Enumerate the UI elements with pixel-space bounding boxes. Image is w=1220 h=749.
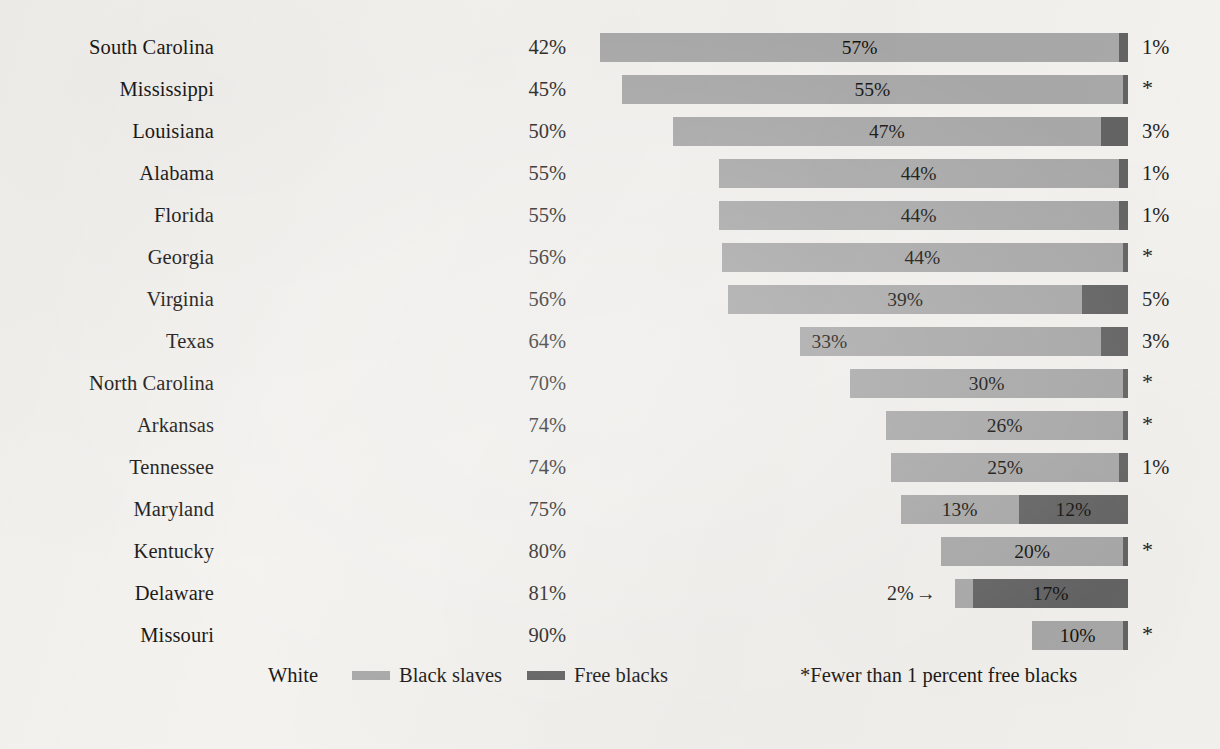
bar-track: 26%* — [560, 407, 1220, 449]
bar-segment-black-slaves: 25% — [891, 453, 1119, 482]
legend-label: White — [268, 664, 318, 687]
legend-item-free: Free blacks — [527, 660, 668, 690]
free-blacks-note: 1% — [1142, 453, 1169, 482]
state-label: North Carolina — [0, 369, 214, 397]
bar-segment-black-slaves: 33% — [800, 327, 1100, 356]
stacked-bar: 25% — [891, 453, 1128, 482]
bar-track: 57%1% — [560, 29, 1220, 71]
chart-row: Arkansas74%26%* — [0, 407, 1220, 449]
free-blacks-note: * — [1142, 369, 1153, 400]
white-percentage-label: 90% — [430, 621, 566, 649]
bar-segment-free-blacks — [1123, 369, 1128, 398]
chart-row: Georgia56%44%* — [0, 239, 1220, 281]
stacked-bar: 13%12% — [901, 495, 1129, 524]
slaves-percentage-label: 20% — [1014, 542, 1050, 562]
bar-segment-black-slaves: 44% — [719, 201, 1119, 230]
slaves-percentage-label: 13% — [942, 500, 978, 520]
bar-segment-free-blacks — [1082, 285, 1128, 314]
stacked-bar: 33% — [800, 327, 1128, 356]
bar-segment-free-blacks — [1119, 201, 1128, 230]
free-blacks-note: * — [1142, 411, 1153, 442]
stacked-bar: 44% — [719, 201, 1129, 230]
bar-segment-free-blacks — [1119, 33, 1128, 62]
slaves-percentage-label: 57% — [842, 38, 878, 58]
slaves-percentage-label: 33% — [811, 332, 847, 352]
free-blacks-note: 1% — [1142, 33, 1169, 62]
bar-track: 44%* — [560, 239, 1220, 281]
bar-track: 44%1% — [560, 155, 1220, 197]
bar-segment-black-slaves: 47% — [673, 117, 1101, 146]
slaves-percentage-label: 25% — [987, 458, 1023, 478]
stacked-bar: 57% — [600, 33, 1128, 62]
chart-footnote: *Fewer than 1 percent free blacks — [800, 660, 1077, 690]
free-blacks-note: * — [1142, 75, 1153, 106]
chart-row: South Carolina42%57%1% — [0, 29, 1220, 71]
legend-swatch-slaves — [352, 671, 390, 680]
bar-segment-free-blacks — [1123, 411, 1128, 440]
bar-segment-black-slaves: 20% — [941, 537, 1123, 566]
bar-track: 39%5% — [560, 281, 1220, 323]
white-percentage-label: 55% — [430, 201, 566, 229]
white-percentage-label: 74% — [430, 411, 566, 439]
bar-segment-free-blacks — [1119, 453, 1128, 482]
population-composition-chart: South Carolina42%57%1%Mississippi45%55%*… — [0, 0, 1220, 749]
stacked-bar: 26% — [886, 411, 1128, 440]
chart-row: Mississippi45%55%* — [0, 71, 1220, 113]
chart-row: Florida55%44%1% — [0, 197, 1220, 239]
state-label: South Carolina — [0, 33, 214, 61]
slaves-percentage-label: 47% — [869, 122, 905, 142]
chart-row: Louisiana50%47%3% — [0, 113, 1220, 155]
stacked-bar: 44% — [722, 243, 1128, 272]
bar-segment-black-slaves: 10% — [1032, 621, 1123, 650]
bar-segment-free-blacks — [1123, 243, 1128, 272]
slaves-percentage-label: 44% — [904, 248, 940, 268]
state-label: Georgia — [0, 243, 214, 271]
state-label: Louisiana — [0, 117, 214, 145]
chart-row: North Carolina70%30%* — [0, 365, 1220, 407]
white-percentage-label: 81% — [430, 579, 566, 607]
slaves-percentage-label: 30% — [969, 374, 1005, 394]
stacked-bar: 17% — [955, 579, 1128, 608]
bar-track: 55%* — [560, 71, 1220, 113]
state-label: Delaware — [0, 579, 214, 607]
bar-segment-black-slaves: 39% — [728, 285, 1083, 314]
stacked-bar: 55% — [622, 75, 1128, 104]
chart-row: Maryland75%13%12% — [0, 491, 1220, 533]
chart-row: Tennessee74%25%1% — [0, 449, 1220, 491]
bar-track: 13%12% — [560, 491, 1220, 533]
white-percentage-label: 45% — [430, 75, 566, 103]
bar-segment-black-slaves: 13% — [901, 495, 1019, 524]
bar-segment-free-blacks — [1123, 75, 1128, 104]
callout-value: 2% — [887, 582, 914, 605]
bar-track: 30%* — [560, 365, 1220, 407]
bar-track: 47%3% — [560, 113, 1220, 155]
white-percentage-label: 56% — [430, 243, 566, 271]
state-label: Maryland — [0, 495, 214, 523]
free-blacks-note: 3% — [1142, 327, 1169, 356]
state-label: Missouri — [0, 621, 214, 649]
state-label: Mississippi — [0, 75, 214, 103]
bar-segment-black-slaves: 57% — [600, 33, 1119, 62]
bar-segment-free-blacks — [1123, 537, 1128, 566]
stacked-bar: 47% — [673, 117, 1128, 146]
bar-segment-free-blacks — [1101, 117, 1128, 146]
white-percentage-label: 74% — [430, 453, 566, 481]
bar-segment-free-blacks: 17% — [973, 579, 1128, 608]
bar-segment-black-slaves: 44% — [719, 159, 1119, 188]
slaves-percentage-label: 44% — [901, 206, 937, 226]
free-blacks-note: 3% — [1142, 117, 1169, 146]
chart-row: Alabama55%44%1% — [0, 155, 1220, 197]
bar-segment-black-slaves: 55% — [622, 75, 1123, 104]
state-label: Alabama — [0, 159, 214, 187]
bar-track: 10%* — [560, 617, 1220, 659]
free-blacks-note: 1% — [1142, 159, 1169, 188]
bar-segment-free-blacks: 12% — [1019, 495, 1128, 524]
free-blacks-percentage-label: 17% — [1033, 584, 1069, 604]
free-blacks-note: 5% — [1142, 285, 1169, 314]
chart-row: Missouri90%10%* — [0, 617, 1220, 659]
free-blacks-note: * — [1142, 243, 1153, 274]
chart-row: Virginia56%39%5% — [0, 281, 1220, 323]
state-label: Texas — [0, 327, 214, 355]
white-percentage-label: 42% — [430, 33, 566, 61]
stacked-bar: 44% — [719, 159, 1129, 188]
